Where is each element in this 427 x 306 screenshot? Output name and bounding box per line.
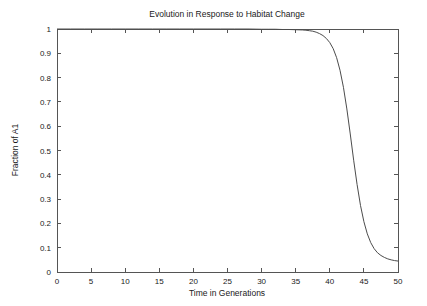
chart-svg: Evolution in Response to Habitat Change … (0, 0, 427, 306)
y-tick-label: 0.3 (40, 195, 52, 204)
x-tick-label: 30 (257, 277, 266, 286)
y-tick-label: 0.8 (40, 74, 52, 83)
y-tick-label: 0.6 (40, 122, 52, 131)
y-tick-label: 0.7 (40, 98, 52, 107)
x-axis-title: Time in Generations (189, 288, 265, 298)
y-tick-label: 0.4 (40, 171, 52, 180)
x-tick-label: 35 (291, 277, 300, 286)
x-tick-label: 40 (325, 277, 334, 286)
x-tick-label: 0 (55, 277, 60, 286)
y-tick-label: 0.2 (40, 219, 52, 228)
y-axis-title: Fraction of A1 (10, 124, 20, 177)
x-tick-label: 10 (121, 277, 130, 286)
x-tick-label: 20 (189, 277, 198, 286)
chart-title: Evolution in Response to Habitat Change (149, 9, 305, 19)
x-tick-label: 50 (394, 277, 403, 286)
y-tick-label: 0.1 (40, 244, 52, 253)
y-tick-label: 0.5 (40, 147, 52, 156)
y-tick-label: 0.9 (40, 49, 52, 58)
x-tick-label: 5 (89, 277, 94, 286)
x-tick-label: 25 (223, 277, 232, 286)
y-tick-label: 1 (47, 25, 52, 34)
x-tick-label: 15 (155, 277, 164, 286)
figure-background (0, 0, 427, 306)
y-tick-label: 0 (47, 268, 52, 277)
chart-figure: Evolution in Response to Habitat Change … (0, 0, 427, 306)
x-tick-label: 45 (359, 277, 368, 286)
